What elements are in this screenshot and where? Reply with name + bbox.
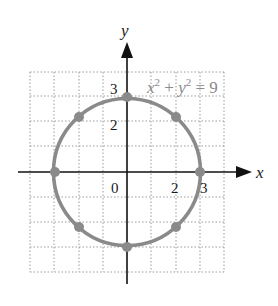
y-tick-2: 2: [110, 117, 118, 133]
y-tick-3: 3: [110, 81, 118, 97]
origin-label: 0: [111, 180, 119, 196]
x-axis-label: x: [255, 163, 264, 182]
y-axis-arrow-icon: [121, 42, 133, 58]
circle-graph: y x 3 2 0 2 3 x2 + y2 = 9: [0, 0, 278, 306]
y-axis-label: y: [119, 21, 129, 40]
x-tick-2: 2: [171, 180, 179, 196]
x-axis-arrow-icon: [236, 166, 252, 178]
equation-label: x2 + y2 = 9: [146, 76, 218, 97]
x-tick-3: 3: [200, 180, 208, 196]
